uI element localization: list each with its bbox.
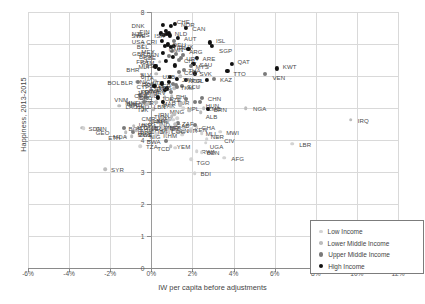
data-point — [200, 131, 204, 135]
gridline-horizontal — [28, 172, 398, 173]
data-point-label: NGA — [253, 105, 267, 112]
data-point-label: SGP — [219, 46, 232, 53]
data-point-label: SLV — [140, 70, 151, 77]
data-point — [199, 111, 203, 115]
legend-marker-icon — [319, 241, 323, 245]
data-point — [200, 150, 204, 154]
legend-item-lower-middle-income[interactable]: Lower Middle Income — [319, 238, 389, 249]
data-point — [175, 85, 179, 89]
data-point — [173, 146, 177, 150]
data-point — [184, 97, 188, 101]
data-point-label: YEM — [177, 143, 191, 150]
chart-root: Happiness, 2013-2015 IW per capita befor… — [0, 0, 425, 304]
data-point-label: NZL — [132, 30, 144, 37]
data-point — [160, 39, 164, 43]
x-axis-title: IW per capita before adjustments — [0, 283, 425, 292]
data-point-label: NIG — [150, 132, 161, 139]
data-point-label: CHE — [177, 17, 190, 24]
data-point-label: BLR — [121, 79, 133, 86]
legend-label: Low Income — [328, 228, 363, 235]
data-point-label: MUS — [158, 84, 172, 91]
data-point — [190, 157, 194, 161]
data-point-label: BRN — [214, 105, 227, 112]
data-point-label: OMN — [169, 45, 184, 52]
data-point — [130, 134, 134, 138]
data-point-label: TTO — [233, 69, 245, 76]
data-point — [175, 116, 179, 120]
data-point — [169, 24, 173, 28]
data-point — [172, 39, 176, 43]
data-point-label: AFG — [231, 154, 244, 161]
data-point — [118, 104, 122, 108]
data-point — [161, 51, 165, 55]
data-point — [210, 44, 214, 48]
y-tick-label: 1 — [141, 233, 148, 240]
legend-label: Lower Middle Income — [328, 240, 390, 247]
legend-item-low-income[interactable]: Low Income — [319, 226, 363, 237]
data-point-label: AZE — [169, 95, 181, 102]
data-point-label: BOL — [107, 78, 120, 85]
data-point — [275, 66, 279, 70]
y-tick-mark — [147, 236, 151, 237]
data-point-label: BDI — [201, 169, 211, 176]
data-point — [205, 78, 209, 82]
legend[interactable]: Low IncomeLower Middle IncomeUpper Middl… — [310, 220, 424, 274]
data-point-label: GIN — [96, 125, 107, 132]
x-tick-label: -2% — [104, 270, 116, 277]
x-tick-label: -4% — [63, 270, 75, 277]
data-point-label: NER — [211, 133, 224, 140]
data-point — [179, 56, 183, 60]
data-point — [169, 90, 173, 94]
data-point — [158, 60, 162, 64]
legend-item-high-income[interactable]: High Income — [319, 261, 365, 272]
data-point — [169, 104, 173, 108]
data-point — [155, 72, 159, 76]
data-point-label: TGO — [196, 159, 210, 166]
data-point-label: TKM — [180, 83, 193, 90]
data-point — [182, 68, 186, 72]
legend-label: High Income — [328, 263, 365, 270]
data-point — [168, 33, 172, 37]
data-point — [189, 129, 193, 133]
data-point — [349, 118, 353, 122]
gridline-horizontal — [28, 140, 398, 141]
data-point — [178, 74, 182, 78]
y-tick-mark — [147, 204, 151, 205]
y-tick-label: 2 — [141, 201, 148, 208]
data-point — [244, 107, 248, 111]
legend-item-upper-middle-income[interactable]: Upper Middle Income — [319, 249, 390, 260]
gridline-horizontal — [28, 204, 398, 205]
data-point-label: ISR — [154, 32, 164, 39]
data-point — [161, 125, 165, 129]
data-point — [172, 112, 176, 116]
data-point-label: LBR — [299, 140, 311, 147]
gridline-horizontal — [28, 12, 398, 13]
data-point-label: CIV — [224, 136, 234, 143]
data-point — [225, 68, 229, 72]
data-point — [173, 63, 177, 67]
data-point-label: MNE — [125, 98, 139, 105]
y-tick-mark — [147, 268, 151, 269]
data-point-label: MLT — [138, 63, 150, 70]
data-point — [212, 77, 216, 81]
x-tick-label: 6% — [270, 270, 280, 277]
y-tick-label: 3 — [141, 169, 148, 176]
data-point-label: MYS — [195, 62, 209, 69]
data-point-label: VEN — [272, 74, 285, 81]
data-point-label: TCD — [157, 144, 170, 151]
y-tick-label: 0 — [141, 265, 148, 272]
data-point — [164, 134, 168, 138]
x-tick-label: 4% — [229, 270, 239, 277]
data-point — [163, 44, 167, 48]
y-tick-mark — [147, 172, 151, 173]
plot-area: -6%-4%-2%0%2%4%6%8%10%12%012345678 NORCA… — [28, 12, 398, 268]
legend-label: Upper Middle Income — [328, 251, 390, 258]
data-point — [151, 93, 155, 97]
data-point — [290, 142, 294, 146]
data-point-label: MDA — [113, 133, 127, 140]
x-tick-label: -6% — [22, 270, 34, 277]
data-point-label: KWT — [283, 63, 297, 70]
data-point-label: BEN — [207, 149, 220, 156]
x-tick-label: 2% — [188, 270, 198, 277]
legend-marker-icon — [319, 264, 323, 268]
